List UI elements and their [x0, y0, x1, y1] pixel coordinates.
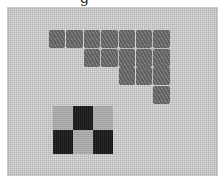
stitch-square	[119, 67, 135, 85]
checker-cell-dark	[73, 106, 93, 130]
stitch-square	[136, 30, 152, 48]
stitch-square	[119, 49, 135, 67]
stitch-square	[101, 30, 117, 48]
checker-cell-dark	[93, 130, 113, 154]
stitch-square	[153, 86, 169, 104]
stitch-square	[49, 30, 65, 48]
checker-cell-light	[73, 130, 93, 154]
stitch-square	[119, 30, 135, 48]
stitch-square	[153, 30, 169, 48]
stitch-square	[66, 30, 82, 48]
stitch-sample-photo	[7, 7, 218, 176]
checker-cell-light	[53, 106, 73, 130]
checker-cell-dark	[53, 130, 73, 154]
stitch-square	[136, 49, 152, 67]
stitch-square	[84, 30, 100, 48]
stitch-square	[153, 49, 169, 67]
stitch-square	[136, 67, 152, 85]
stitch-square	[84, 49, 100, 67]
checker-cell-light	[93, 106, 113, 130]
stitch-square	[153, 67, 169, 85]
stitch-square	[101, 49, 117, 67]
caption-fragment: g	[80, 0, 89, 5]
